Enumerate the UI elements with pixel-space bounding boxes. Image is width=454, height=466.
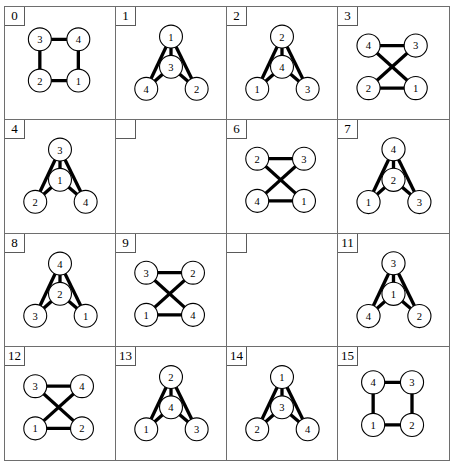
graph-cell-index-label: 6 — [227, 120, 247, 139]
graph-cell-4: 43124 — [5, 120, 116, 233]
graph-cell-index-label: 15 — [338, 347, 358, 366]
graph-node-label: 1 — [168, 32, 173, 43]
graph-node-label: 1 — [33, 423, 38, 434]
graph-node-label: 1 — [391, 288, 396, 299]
graph-node-label: 4 — [76, 34, 82, 45]
graph-node-label: 1 — [57, 175, 62, 186]
graph-node: 2 — [246, 148, 269, 171]
graph-node-label: 4 — [305, 424, 311, 435]
graph-cell-index-label: 7 — [338, 120, 358, 139]
graph-node-label: 4 — [57, 258, 63, 269]
graph-node: 4 — [296, 418, 319, 441]
graph-node: 4 — [382, 138, 405, 161]
graph-cell-index-label: 12 — [5, 347, 25, 366]
graph-cell-index-label — [116, 120, 136, 139]
graph-node: 2 — [24, 191, 47, 214]
graph-node-label: 1 — [366, 197, 371, 208]
graph-node-label: 4 — [79, 381, 85, 392]
graph-node: 2 — [28, 69, 51, 92]
graph-node: 1 — [74, 304, 97, 327]
graph-node-label: 1 — [144, 309, 149, 320]
graph-node: 3 — [404, 34, 427, 57]
graph-cell-index-label — [227, 234, 247, 253]
graph-cell-10 — [227, 234, 338, 347]
graph-node: 4 — [357, 34, 380, 57]
graph-node-label: 2 — [279, 32, 284, 43]
graph-node: 1 — [160, 25, 183, 48]
graph-cell-3: 34321 — [338, 7, 449, 120]
graph-cell-13: 132413 — [116, 347, 227, 460]
graph-node: 1 — [135, 303, 158, 326]
graph-node-label: 1 — [144, 424, 149, 435]
graph-node-label: 2 — [409, 420, 414, 431]
graph-node-label: 3 — [33, 310, 38, 321]
graph-cell-14: 141324 — [227, 347, 338, 460]
graph-cell-index-label: 14 — [227, 347, 247, 366]
graph-node-label: 4 — [391, 145, 397, 156]
graph-node-label: 2 — [33, 197, 38, 208]
graph-node-label: 2 — [417, 310, 422, 321]
graph-node: 4 — [246, 190, 269, 213]
graph-cell-2: 22413 — [227, 7, 338, 120]
graph-node: 2 — [185, 77, 208, 100]
graph-node-label: 4 — [370, 377, 376, 388]
graph-cell-12: 123412 — [5, 347, 116, 460]
graph-node: 1 — [24, 417, 47, 440]
graph-node: 4 — [182, 303, 205, 326]
graph-cell-1: 11342 — [116, 7, 227, 120]
graph-node: 3 — [382, 251, 405, 274]
graph-node: 2 — [408, 304, 431, 327]
graph-node-label: 4 — [366, 310, 372, 321]
graph-node-label: 4 — [144, 84, 150, 95]
graph-node-label: 4 — [168, 402, 174, 413]
graph-grid-container: 0342111342224133432143124623417421384231… — [4, 6, 450, 461]
graph-cell-6: 62341 — [227, 120, 338, 233]
graph-cell-index-label: 3 — [338, 7, 358, 26]
graph-cell-index-label: 9 — [116, 234, 136, 253]
graph-cell-5 — [116, 120, 227, 233]
graph-node: 1 — [382, 282, 405, 305]
graph-node-label: 4 — [279, 62, 285, 73]
graph-node-label: 2 — [366, 83, 371, 94]
graph-node: 3 — [24, 375, 47, 398]
graph-node-label: 4 — [83, 197, 89, 208]
graph-node-label: 1 — [83, 310, 88, 321]
graph-node: 1 — [49, 169, 72, 192]
graph-cell-index-label: 1 — [116, 7, 136, 26]
graph-node: 3 — [296, 77, 319, 100]
graph-node: 1 — [67, 69, 90, 92]
graph-node-label: 3 — [409, 377, 414, 388]
graph-node: 4 — [67, 28, 90, 51]
graph-node: 3 — [408, 191, 431, 214]
graph-node: 2 — [49, 282, 72, 305]
graph-node-label: 1 — [370, 420, 375, 431]
graph-node-label: 2 — [79, 423, 84, 434]
graph-node-label: 3 — [144, 267, 149, 278]
graph-node: 1 — [135, 418, 158, 441]
graph-cell-0: 03421 — [5, 7, 116, 120]
graph-cell-15: 154312 — [338, 347, 449, 460]
graph-node: 3 — [49, 138, 72, 161]
graph-cell-7: 74213 — [338, 120, 449, 233]
graph-cell-11: 113142 — [338, 234, 449, 347]
graph-cell-8: 84231 — [5, 234, 116, 347]
graph-node-label: 2 — [194, 84, 199, 95]
graph-node: 1 — [293, 190, 316, 213]
graph-cell-9: 93214 — [116, 234, 227, 347]
graph-cell-index-label: 8 — [5, 234, 25, 253]
graph-node-label: 1 — [413, 83, 418, 94]
graph-node: 3 — [293, 148, 316, 171]
graph-node: 4 — [71, 375, 94, 398]
graph-node-label: 1 — [279, 372, 284, 383]
graph-node-label: 3 — [391, 258, 396, 269]
graph-node-label: 3 — [168, 62, 173, 73]
graph-node: 3 — [400, 371, 423, 394]
graph-node: 3 — [28, 28, 51, 51]
graph-node: 4 — [160, 396, 183, 419]
graph-node-label: 2 — [255, 154, 260, 165]
graph-node-label: 2 — [57, 288, 62, 299]
graph-node: 4 — [357, 304, 380, 327]
graph-grid: 0342111342224133432143124623417421384231… — [5, 7, 449, 460]
graph-node-label: 3 — [305, 84, 310, 95]
graph-cell-index-label: 4 — [5, 120, 25, 139]
